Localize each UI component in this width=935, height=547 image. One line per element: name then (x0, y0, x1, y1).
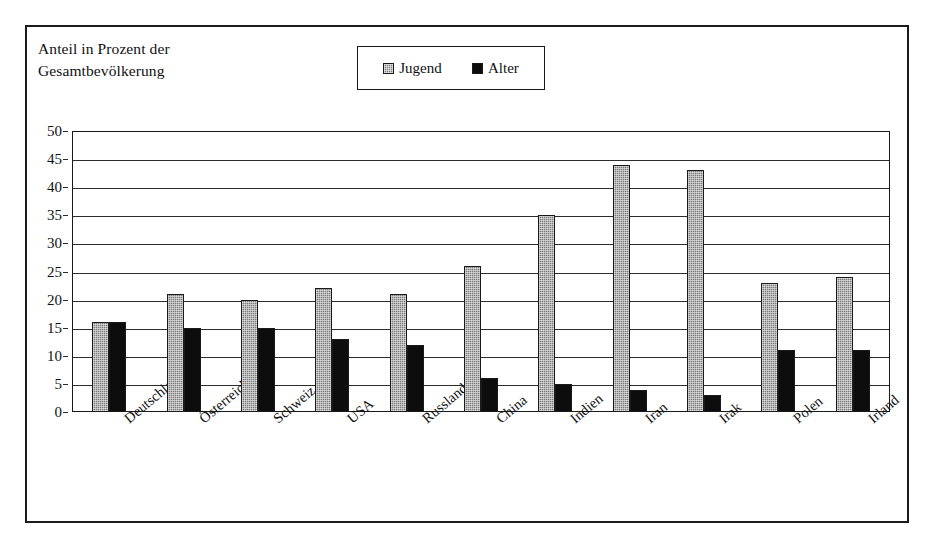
y-tick-label-25: 25 (47, 263, 62, 280)
y-tick-label-20: 20 (47, 291, 62, 308)
y-tick-label-50: 50 (47, 123, 62, 140)
y-tick-label-5: 5 (55, 375, 63, 392)
x-tick-label: Irak (716, 414, 727, 427)
x-tick-label: Russland (419, 414, 430, 427)
x-tick-label: China (493, 414, 504, 427)
bar-alter[interactable] (481, 378, 498, 412)
x-tick-label: Schweiz (270, 414, 281, 427)
bar-alter[interactable] (184, 328, 201, 412)
y-tick-mark-0 (63, 412, 68, 413)
y-tick-mark-20 (63, 300, 68, 301)
y-tick-mark-10 (63, 356, 68, 357)
legend-item-alter[interactable]: Alter (472, 60, 519, 77)
chart-legend: JugendAlter (357, 46, 545, 90)
bar-jugend[interactable] (390, 294, 407, 412)
y-tick-mark-40 (63, 187, 68, 188)
bar-alter[interactable] (407, 345, 424, 412)
legend-label: Jugend (399, 60, 442, 77)
bar-group (72, 131, 146, 412)
x-tick-label: Deutschland (121, 414, 132, 427)
y-tick-mark-45 (63, 159, 68, 160)
bar-jugend[interactable] (538, 215, 555, 412)
y-tick-mark-35 (63, 215, 68, 216)
bar-group (667, 131, 741, 412)
bar-group (518, 131, 592, 412)
bar-jugend[interactable] (761, 283, 778, 412)
bar-group (816, 131, 890, 412)
bar-alter[interactable] (258, 328, 275, 412)
bar-group (593, 131, 667, 412)
chart-title: Anteil in Prozent der Gesamtbevölkerung (38, 38, 298, 82)
bar-alter[interactable] (630, 390, 647, 412)
bar-jugend[interactable] (92, 322, 109, 412)
y-tick-mark-25 (63, 272, 68, 273)
chart-screenshot: Anteil in Prozent der Gesamtbevölkerung … (0, 0, 935, 547)
y-tick-mark-30 (63, 243, 68, 244)
bar-alter[interactable] (704, 395, 721, 412)
bar-jugend[interactable] (241, 300, 258, 412)
legend-swatch-jugend (383, 63, 394, 74)
bar-jugend[interactable] (315, 288, 332, 412)
bar-group (369, 131, 443, 412)
bar-jugend[interactable] (464, 266, 481, 412)
bar-alter[interactable] (109, 322, 126, 412)
bar-alter[interactable] (555, 384, 572, 412)
x-tick-label: Polen (790, 414, 801, 427)
bar-group (444, 131, 518, 412)
y-tick-mark-5 (63, 384, 68, 385)
bar-group (741, 131, 815, 412)
y-tick-label-45: 45 (47, 151, 62, 168)
y-tick-label-15: 15 (47, 319, 62, 336)
legend-swatch-alter (472, 63, 483, 74)
legend-label: Alter (488, 60, 519, 77)
bar-group (295, 131, 369, 412)
x-tick-label: Indien (567, 414, 578, 427)
y-tick-label-35: 35 (47, 207, 62, 224)
bar-alter[interactable] (332, 339, 349, 412)
x-tick-label: Irland (865, 414, 876, 427)
y-tick-label-0: 0 (55, 404, 63, 421)
x-tick-label: USA (344, 414, 355, 427)
x-tick-label: Österreich (196, 414, 207, 427)
bar-jugend[interactable] (687, 170, 704, 412)
y-tick-mark-50 (63, 131, 68, 132)
bar-alter[interactable] (853, 350, 870, 412)
x-axis-labels: DeutschlandÖsterreichSchweizUSARusslandC… (72, 414, 890, 504)
x-tick-label: Iran (642, 414, 653, 427)
bars-layer (72, 131, 890, 412)
y-tick-mark-15 (63, 328, 68, 329)
y-axis: 50454035302520151050 (28, 131, 68, 412)
bar-jugend[interactable] (613, 165, 630, 412)
y-tick-label-10: 10 (47, 347, 62, 364)
bar-group (146, 131, 220, 412)
legend-item-jugend[interactable]: Jugend (383, 60, 442, 77)
y-tick-label-30: 30 (47, 235, 62, 252)
bar-jugend[interactable] (836, 277, 853, 412)
y-tick-label-40: 40 (47, 179, 62, 196)
plot-area-wrapper (72, 131, 890, 412)
bar-jugend[interactable] (167, 294, 184, 412)
bar-group (221, 131, 295, 412)
bar-alter[interactable] (778, 350, 795, 412)
